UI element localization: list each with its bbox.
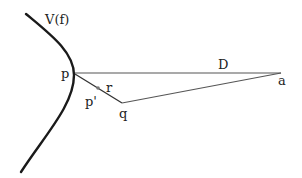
point-r-label: r	[106, 80, 113, 95]
curve-vf	[21, 14, 74, 172]
curve-label: V(f)	[44, 12, 69, 27]
segment-d-label: D	[218, 57, 228, 72]
diagram-canvas: V(f) p D r p' q a	[0, 0, 302, 178]
point-p-label: p	[61, 66, 69, 81]
point-p-prime-label: p'	[85, 94, 97, 109]
point-q-label: q	[119, 106, 127, 121]
point-p-prime-marker	[96, 86, 100, 90]
point-a-label: a	[278, 73, 286, 88]
segment-q-a	[122, 73, 281, 103]
